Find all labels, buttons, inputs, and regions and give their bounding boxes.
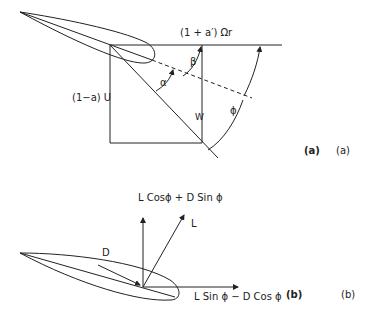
panel-b-diagram (20, 215, 238, 300)
phi-arc-upper (244, 47, 260, 96)
panel-b-bold-tag: (b) (286, 290, 302, 300)
axial-velocity-label: (1−a) U (72, 93, 111, 103)
drag-label: D (102, 248, 110, 258)
lift-label: L (191, 219, 197, 229)
drag-arrow (98, 265, 140, 285)
panel-a-diagram (20, 12, 282, 158)
beta-label: β (190, 57, 196, 67)
panel-b-tag: (b) (341, 290, 355, 300)
phi-label: ϕ (230, 106, 237, 116)
tangential-force-label: L Sin ϕ − D Cos ϕ (194, 292, 282, 302)
tangential-velocity-label: (1 + a′) Ωr (180, 28, 232, 38)
phi-arc (208, 100, 243, 150)
axial-force-label: L Cosϕ + D Sin ϕ (138, 193, 223, 203)
alpha-label: α (160, 78, 167, 88)
chord-line-b (20, 253, 175, 297)
panel-a-bold-tag: (a) (304, 146, 320, 156)
relative-velocity-label: W (195, 113, 204, 122)
panel-a-tag: (a) (336, 146, 350, 156)
chord-line-a (20, 12, 152, 60)
